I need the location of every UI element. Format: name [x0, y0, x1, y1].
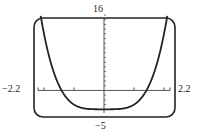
axes	[38, 15, 170, 113]
graph-window	[0, 0, 197, 134]
